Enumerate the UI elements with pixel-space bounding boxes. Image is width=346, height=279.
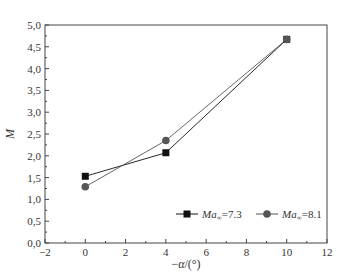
x-tick-label: 4	[163, 246, 169, 258]
series-line	[85, 39, 286, 176]
legend-item-1: Ma∞=7.3	[176, 208, 242, 222]
legend-item-2: Ma∞=8.1	[256, 208, 322, 222]
square-marker	[184, 211, 191, 218]
x-tick-label: 10	[281, 246, 293, 258]
y-tick-label: 5,0	[27, 19, 41, 31]
y-tick-label: 4,0	[27, 63, 41, 75]
y-tick-label: 1,5	[27, 172, 41, 184]
x-tick-label: 0	[83, 246, 89, 258]
circle-marker	[283, 36, 291, 44]
legend-label: Ma∞=8.1	[281, 208, 322, 222]
y-axis-title: M	[3, 128, 17, 140]
x-axis-title: −α/(°)	[171, 257, 200, 271]
data-series	[81, 36, 290, 191]
legend: Ma∞=7.3Ma∞=8.1	[176, 208, 322, 222]
x-axis: −2024681012	[39, 239, 332, 258]
series-2	[81, 36, 290, 191]
legend-label: Ma∞=7.3	[201, 208, 242, 222]
y-axis: 0,00,51,01,52,02,53,03,54,04,55,0	[27, 19, 49, 249]
x-tick-label: 2	[123, 246, 129, 258]
y-tick-label: 1,0	[27, 193, 41, 205]
x-tick-label: 8	[244, 246, 250, 258]
y-tick-label: 2,5	[27, 128, 41, 140]
y-tick-label: 4,5	[27, 41, 41, 53]
line-chart: 0,00,51,01,52,02,53,03,54,04,55,0 −20246…	[0, 0, 346, 279]
square-marker	[162, 149, 169, 156]
circle-marker	[81, 183, 89, 191]
circle-marker	[162, 137, 170, 145]
y-tick-label: 3,5	[27, 84, 41, 96]
circle-marker	[263, 210, 271, 218]
x-tick-label: −2	[39, 246, 51, 258]
series-1	[82, 36, 290, 180]
series-line	[85, 39, 286, 186]
y-tick-label: 3,0	[27, 106, 41, 118]
x-tick-label: 12	[322, 246, 333, 258]
square-marker	[82, 173, 89, 180]
x-tick-label: 6	[203, 246, 209, 258]
y-tick-label: 0,5	[27, 215, 41, 227]
y-tick-label: 2,0	[27, 150, 41, 162]
